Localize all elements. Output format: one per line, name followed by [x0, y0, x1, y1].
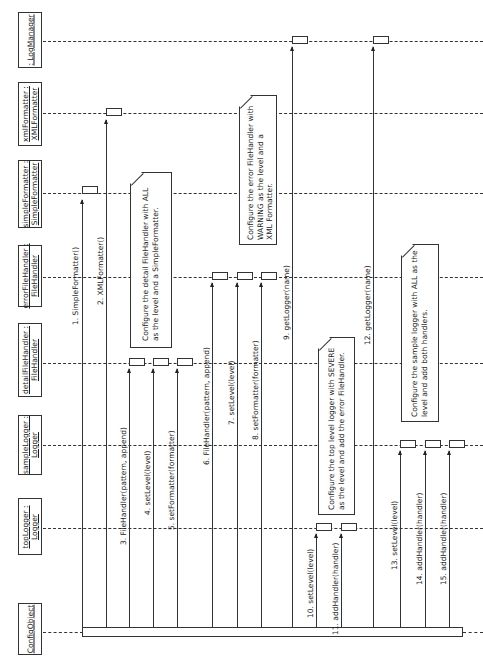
message-label-12: 12. getLogger(name): [363, 265, 372, 345]
arrowhead-icon: [447, 450, 451, 455]
note-fold-icon: [130, 172, 142, 184]
message-label-15: 15. addHandler(handler): [439, 493, 448, 585]
arrowhead-icon: [398, 450, 402, 455]
message-line-2: [106, 120, 107, 627]
configobject-activation-bar: [82, 627, 463, 637]
message-label-2: 2. XMLFormatter(): [96, 237, 105, 305]
message-label-7: 7. setLevel(level): [227, 361, 236, 426]
lifeline-header-configobject: ConfigObject: [18, 603, 42, 655]
message-line-8: [261, 283, 262, 627]
message-label-11: 11. addHandler(handler): [331, 543, 340, 635]
message-line-10: [316, 534, 317, 627]
lifeline-configobject: [43, 632, 83, 633]
arrowhead-icon: [259, 282, 263, 287]
message-label-13: 13. setLevel(level): [390, 501, 399, 570]
lifeline-label: sampleLogger : Logger: [21, 416, 39, 474]
message-label-1: 1. SimpleFormatter(): [71, 247, 80, 325]
arrowhead-icon: [104, 119, 108, 124]
lifeline-header-errorfilehandler: errorFileHandler : FileHandler: [18, 245, 42, 307]
message-label-4: 4. setLevel(level): [143, 451, 152, 516]
note-top-logger: Configure the top level logger with SEVE…: [318, 337, 355, 515]
message-line-15: [449, 451, 450, 627]
lifeline-label: topLogger : Logger: [21, 505, 39, 548]
lifeline-configobject-tail: [463, 632, 483, 633]
arrowhead-icon: [339, 533, 343, 538]
message-line-11: [341, 534, 342, 627]
activation-box-11: [341, 523, 357, 531]
message-line-4: [153, 369, 154, 627]
activation-box-4: [153, 358, 169, 366]
lifeline-header-detailfilehandler: detailFileHandler : FileHandler: [18, 323, 42, 397]
message-line-3: [129, 369, 130, 627]
message-label-8: 8. setFormatter(formatter): [251, 340, 260, 440]
message-line-9: [292, 47, 293, 627]
lifeline-label: simpleFormatter : SimpleFormatter: [21, 161, 39, 228]
note-text: Configure the sample logger with ALL as …: [410, 250, 429, 417]
note-sample-logger: Configure the sample logger with ALL as …: [401, 244, 439, 422]
message-line-12: [373, 47, 374, 627]
lifeline-samplelogger: [43, 445, 483, 446]
note-text: Configure the error FileHandler with WAR…: [246, 106, 275, 240]
message-line-6: [212, 283, 213, 627]
arrowhead-icon: [423, 450, 427, 455]
message-line-5: [177, 369, 178, 627]
lifeline-label: : LogManager: [26, 14, 35, 65]
activation-box-14: [425, 440, 441, 448]
message-label-10: 10. setLevel(level): [306, 549, 315, 618]
activation-box-7: [237, 272, 253, 280]
arrowhead-icon: [80, 199, 84, 204]
message-label-6: 6. FileHandler(pattern, append): [202, 347, 211, 465]
activation-box-1: [82, 186, 98, 194]
arrowhead-icon: [290, 46, 294, 51]
arrowhead-icon: [127, 368, 131, 373]
message-label-14: 14. addHandler(handler): [415, 493, 424, 585]
activation-box-5: [177, 358, 193, 366]
note-error-filehandler: Configure the error FileHandler with WAR…: [239, 95, 277, 245]
activation-box-10: [316, 523, 332, 531]
activation-box-13: [400, 440, 416, 448]
arrowhead-icon: [151, 368, 155, 373]
arrowhead-icon: [314, 533, 318, 538]
lifeline-header-simpleformatter: simpleFormatter : SimpleFormatter: [18, 160, 42, 228]
activation-box-3: [129, 358, 145, 366]
arrowhead-icon: [235, 282, 239, 287]
lifeline-header-xmlformatter: xmlFormatter : XMLFormatter: [18, 82, 42, 146]
note-text: Configure the top level logger with SEVE…: [327, 348, 346, 510]
arrowhead-icon: [371, 46, 375, 51]
activation-box-2: [106, 108, 122, 116]
note-text: Configure the detail FileHandler with AL…: [141, 188, 160, 341]
note-detail-filehandler: Configure the detail FileHandler with AL…: [130, 172, 172, 348]
message-line-13: [400, 451, 401, 627]
message-line-14: [425, 451, 426, 627]
lifeline-label: errorFileHandler : FileHandler: [21, 243, 39, 308]
arrowhead-icon: [175, 368, 179, 373]
message-label-3: 3. FileHandler(pattern, append): [119, 427, 128, 545]
lifeline-header-toplogger: topLogger : Logger: [18, 498, 42, 555]
message-label-5: 5. setFormatter(formatter): [167, 430, 176, 530]
lifeline-logmanager: [43, 41, 483, 42]
lifeline-header-logmanager: : LogManager: [18, 12, 42, 68]
activation-box-12: [373, 36, 389, 44]
message-line-7: [237, 283, 238, 627]
lifeline-label: xmlFormatter : XMLFormatter: [21, 86, 39, 142]
lifeline-header-samplelogger: sampleLogger : Logger: [18, 415, 42, 475]
activation-box-15: [449, 440, 465, 448]
lifeline-label: detailFileHandler : FileHandler: [21, 326, 39, 394]
activation-box-6: [212, 272, 228, 280]
lifeline-label: ConfigObject: [26, 605, 35, 654]
message-label-9: 9. getLogger(name): [282, 265, 291, 340]
arrowhead-icon: [210, 282, 214, 287]
message-line-1: [82, 200, 83, 627]
activation-box-9: [292, 36, 308, 44]
activation-box-8: [261, 272, 277, 280]
